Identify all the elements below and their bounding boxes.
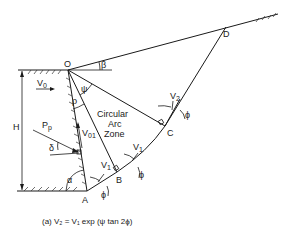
figure-caption: (a) V₂ = V₁ exp (ψ tan 2ϕ) [42,217,133,226]
label-delta: δ [49,143,54,153]
label-phi-C: ϕ [185,110,190,120]
label-V1-A-sub: 1 [107,164,111,171]
label-psi: ψ [81,84,87,94]
label-V0-sub: 0 [43,82,47,89]
label-rho: ρ [72,96,77,106]
label-beta: β [101,60,106,70]
zone-label-line2: Arc [108,119,122,129]
label-H: H [13,122,20,132]
label-V1-B-sub: 1 [139,146,143,153]
label-Pp-sub: p [48,124,52,132]
label-V01-sub: 01 [88,132,96,139]
label-B: B [116,175,122,185]
label-alpha: α [67,175,72,185]
label-phi-A: ϕ [101,190,106,200]
label-O: O [64,59,71,69]
zone-label-line1: Circular [97,109,128,119]
label-phi-B: ϕ [139,170,144,180]
zone-label-line3: Zone [104,129,125,139]
label-D: D [223,29,230,39]
label-V2-sub: 2 [176,95,180,102]
diagram-labels: O D A B C Circular Arc Zone H V 0 V 01 P… [0,0,294,231]
label-A: A [82,195,88,205]
label-C: C [167,128,174,138]
